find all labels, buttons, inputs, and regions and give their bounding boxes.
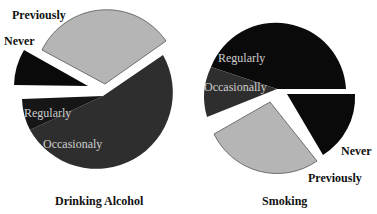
alcohol-label-occasionaly: Occasionaly xyxy=(43,137,102,151)
alcohol-label-regularly: Regularly xyxy=(24,106,71,120)
alcohol-label-never: Never xyxy=(4,34,35,48)
smoking-pie xyxy=(204,23,355,174)
smoking-label-occasionally: Occasionally xyxy=(204,80,267,94)
alcohol-label-previously: Previously xyxy=(12,8,66,22)
smoking-label-never: Never xyxy=(341,144,372,158)
smoking-label-regularly: Regularly xyxy=(218,51,265,65)
chart-canvas: Previously Never Regularly Occasionaly D… xyxy=(0,0,377,214)
alcohol-title: Drinking Alcohol xyxy=(55,194,144,208)
smoking-label-previously: Previously xyxy=(308,171,362,185)
smoking-title: Smoking xyxy=(262,194,307,208)
